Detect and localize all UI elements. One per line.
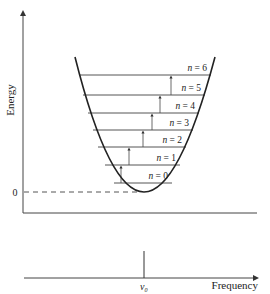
energy-level-label: n = 6 (187, 63, 207, 73)
zero-tick-label: 0 (13, 187, 18, 198)
energy-level: n = 4 (88, 97, 199, 113)
potential-well-parabola (75, 57, 215, 192)
energy-level: n = 3 (93, 115, 193, 130)
nu-subscript: 0 (144, 287, 147, 293)
peak-frequency-label: ν0 (140, 281, 147, 293)
energy-level-label: n = 2 (162, 135, 182, 145)
harmonic-oscillator-diagram: Energy 0 n = 0n = 1n = 2n = 3n = 4n = 5n… (0, 0, 270, 294)
energy-level: n = 5 (83, 77, 205, 95)
energy-levels: n = 0n = 1n = 2n = 3n = 4n = 5n = 6 (79, 63, 211, 183)
energy-level: n = 0 (114, 167, 172, 183)
energy-level-label: n = 1 (156, 153, 176, 163)
energy-level-label: n = 4 (175, 101, 195, 111)
energy-level: n = 6 (79, 63, 211, 75)
energy-level-label: n = 3 (169, 118, 189, 128)
frequency-axis-label: Frequency (212, 279, 259, 291)
energy-level: n = 1 (105, 149, 180, 165)
energy-level-label: n = 5 (181, 83, 201, 93)
energy-level: n = 2 (98, 132, 186, 147)
energy-axis-label: Energy (4, 84, 16, 116)
